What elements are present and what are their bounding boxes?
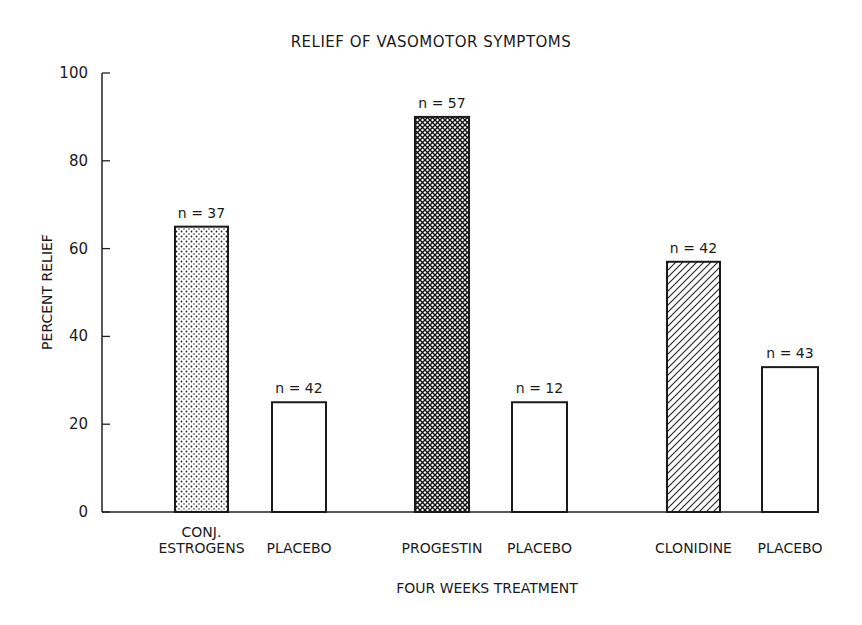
y-tick-label: 40	[69, 327, 88, 345]
bars-group: n = 37n = 42n = 57n = 12n = 42n = 43	[175, 95, 818, 512]
bar	[415, 117, 469, 512]
x-tick-label: PLACEBO	[507, 540, 572, 556]
bar	[762, 367, 818, 512]
bar-annotation: n = 42	[275, 380, 322, 396]
x-tick-label: PLACEBO	[758, 540, 823, 556]
bar	[512, 402, 567, 512]
y-tick-label: 20	[69, 415, 88, 433]
x-tick-label: CLONIDINE	[655, 540, 732, 556]
bar	[272, 402, 326, 512]
x-tick-label: ESTROGENS	[158, 540, 244, 556]
y-tick-label: 60	[69, 240, 88, 258]
x-tick-label: PLACEBO	[267, 540, 332, 556]
x-axis-label: FOUR WEEKS TREATMENT	[396, 580, 578, 596]
bar-annotation: n = 57	[418, 95, 465, 111]
bar-chart: RELIEF OF VASOMOTOR SYMPTOMS 02040608010…	[0, 0, 862, 625]
y-tick-label: 0	[78, 503, 88, 521]
bar	[175, 227, 228, 512]
bar-annotation: n = 12	[516, 380, 563, 396]
bar-annotation: n = 37	[178, 205, 225, 221]
y-tick-label: 100	[59, 64, 88, 82]
chart-title: RELIEF OF VASOMOTOR SYMPTOMS	[291, 33, 572, 51]
x-tick-label: PROGESTIN	[402, 540, 483, 556]
bar	[667, 262, 720, 512]
y-tick-label: 80	[69, 152, 88, 170]
bar-annotation: n = 42	[670, 240, 717, 256]
bar-annotation: n = 43	[766, 345, 813, 361]
x-tick-label: CONJ.	[182, 524, 222, 540]
y-axis: 020406080100	[59, 64, 110, 521]
y-axis-label: PERCENT RELIEF	[39, 234, 55, 350]
x-tick-labels: CONJ.ESTROGENSPLACEBOPROGESTINPLACEBOCLO…	[158, 524, 822, 556]
